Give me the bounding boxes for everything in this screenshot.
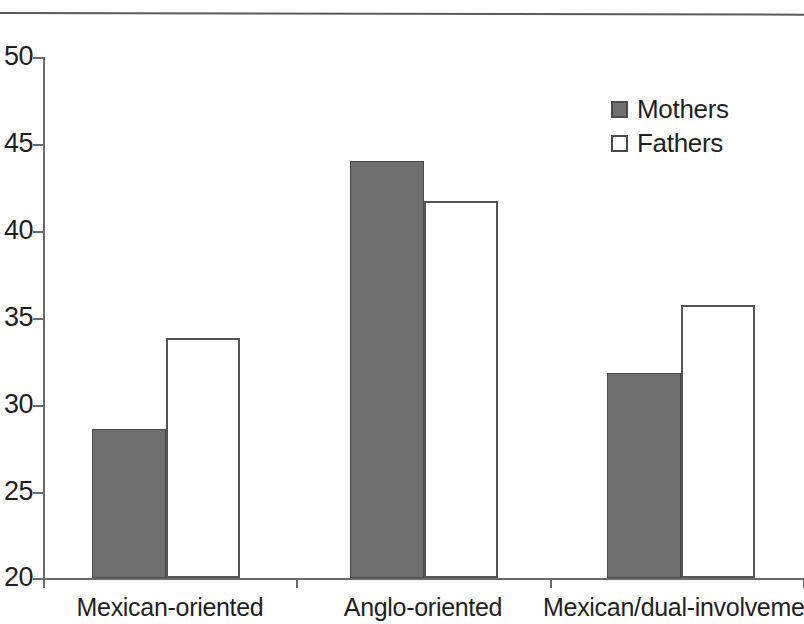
- x-axis-line: [43, 578, 804, 580]
- y-axis-tick-50: [33, 57, 43, 59]
- x-axis-tick-1: [296, 578, 298, 588]
- y-axis-label-35: 35: [0, 304, 33, 331]
- y-axis-label-30: 30: [0, 391, 33, 418]
- legend-item-mothers: Mothers: [611, 92, 729, 126]
- y-axis-tick-45: [33, 144, 43, 146]
- bar-fathers-mexican-dual-involvement: [681, 305, 755, 578]
- y-axis-tick-40: [33, 231, 43, 233]
- bar-mothers-mexican-dual-involvement: [607, 373, 681, 578]
- x-axis-category-label-0: Mexican-oriented: [44, 592, 296, 622]
- y-axis-label-50: 50: [0, 43, 33, 70]
- bar-mothers-anglo-oriented: [350, 161, 424, 578]
- y-axis-tick-30: [33, 405, 43, 407]
- legend-swatch-open-square-icon: [611, 135, 628, 152]
- bar-fathers-mexican-oriented: [166, 338, 240, 578]
- x-axis-tick-2: [550, 578, 552, 588]
- bar-fathers-anglo-oriented: [424, 201, 498, 578]
- x-axis-category-label-1: Anglo-oriented: [297, 592, 549, 622]
- chart-page: 50 45 40 35 30 25 20 Mexican-oriented An…: [0, 0, 804, 624]
- y-axis-tick-25: [33, 492, 43, 494]
- x-axis-category-label-2: Mexican/dual-involvement: [543, 592, 804, 622]
- page-divider-rule: [0, 12, 804, 16]
- legend-item-fathers: Fathers: [611, 126, 729, 160]
- y-axis-label-20: 20: [0, 564, 33, 591]
- y-axis-tick-35: [33, 318, 43, 320]
- legend-label-fathers: Fathers: [637, 130, 723, 156]
- chart-legend: Mothers Fathers: [611, 92, 729, 160]
- y-axis-label-40: 40: [0, 217, 33, 244]
- x-axis-tick-0: [43, 578, 45, 588]
- bar-mothers-mexican-oriented: [92, 429, 166, 578]
- y-axis-tick-20: [33, 578, 43, 580]
- y-axis-label-25: 25: [0, 478, 33, 505]
- legend-swatch-filled-square-icon: [611, 101, 628, 118]
- legend-label-mothers: Mothers: [637, 96, 729, 122]
- y-axis-label-45: 45: [0, 130, 33, 157]
